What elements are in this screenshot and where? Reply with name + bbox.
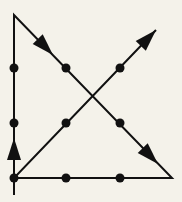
nine-dots-diagram: Nine dots puzzle solution <box>0 0 182 202</box>
grid-dot <box>62 64 71 73</box>
grid-dot <box>10 64 19 73</box>
grid-dot <box>10 119 19 128</box>
grid-dot <box>10 174 19 183</box>
grid-dot <box>116 174 125 183</box>
grid-dot <box>116 119 125 128</box>
grid-dot <box>62 119 71 128</box>
arrow-up-left-edge-icon <box>7 138 21 160</box>
grid-dot <box>62 174 71 183</box>
grid-dot <box>116 64 125 73</box>
